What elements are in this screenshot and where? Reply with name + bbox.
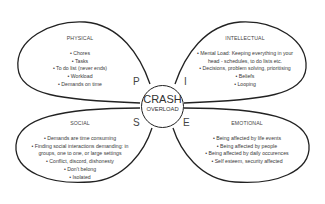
list-item: • Being affected by people	[192, 143, 302, 151]
emotional-section: EMOTIONAL • Being affected by life event…	[192, 120, 302, 166]
list-item: • Beliefs	[185, 73, 305, 81]
list-item: • Chores	[35, 50, 125, 58]
list-item: • Demands are time consuming	[22, 135, 138, 143]
list-item: • Looping	[185, 81, 305, 89]
center-title: CRASH	[142, 93, 183, 105]
social-title: SOCIAL	[22, 120, 138, 128]
center-circle: CRASH OVERLOAD	[141, 85, 184, 128]
physical-title: PHYSICAL	[35, 35, 125, 43]
list-item: • Self esteem, security affected	[192, 158, 302, 166]
list-item: • Being affected by daily occurences	[192, 150, 302, 158]
list-item: • Workload	[35, 73, 125, 81]
list-item: • To do list (never ends)	[35, 65, 125, 73]
list-item: • Demands on time	[35, 81, 125, 89]
list-item: • Being affected by life events	[192, 135, 302, 143]
list-item: head - schedules, to do lists etc.	[185, 58, 305, 66]
intellectual-section: INTELLECTUAL • Mental Load: Keeping ever…	[185, 35, 305, 89]
physical-section: PHYSICAL • Chores • Tasks • To do list (…	[35, 35, 125, 89]
list-item: • Conflict, discord, dishonesty	[22, 158, 138, 166]
letter-p: P	[133, 76, 140, 87]
social-section: SOCIAL • Demands are time consuming • Fi…	[22, 120, 138, 182]
list-item: • Mental Load: Keeping everything in you…	[185, 50, 305, 58]
intellectual-title: INTELLECTUAL	[185, 35, 305, 43]
center-subtitle: OVERLOAD	[142, 105, 183, 113]
list-item: • Isolated	[22, 174, 138, 182]
letter-s: S	[133, 117, 140, 128]
list-item: • Finding social interactions demanding:…	[22, 143, 138, 151]
letter-e: E	[183, 117, 190, 128]
list-item: • Tasks	[35, 58, 125, 66]
list-item: • Don't belong	[22, 166, 138, 174]
letter-i: I	[184, 76, 187, 87]
list-item: groups, one to one, or large settings	[22, 150, 138, 158]
list-item: • Decisions, problem solving, prioritisi…	[185, 65, 305, 73]
emotional-title: EMOTIONAL	[192, 120, 302, 128]
